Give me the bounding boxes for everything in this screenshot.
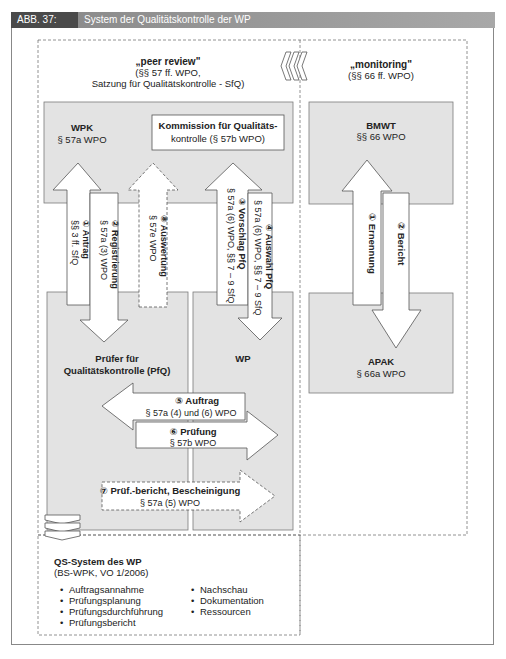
qs-item: Prüfungsbericht — [69, 617, 136, 628]
wp-label: WP — [235, 353, 251, 364]
vorschlag-ref: § 57a (6) WPO, §§ 7 – 9 SfQ — [226, 188, 236, 304]
qs-item: Dokumentation — [200, 595, 264, 606]
bullet: • — [60, 606, 63, 617]
auswahl-label: ④ Auswahl PfQ — [264, 224, 274, 289]
quality-control-diagram: „peer review" (§§ 57 ff. WPO, Satzung fü… — [0, 0, 506, 659]
qs-list-col1: • Auftragsannahme • Prüfungsplanung • Pr… — [60, 584, 163, 628]
pruefung-ref: § 57b WPO — [170, 438, 217, 448]
bmwt-ref: §§ 66 WPO — [356, 131, 405, 142]
qs-item: Prüfungsplanung — [69, 595, 141, 606]
bullet: • — [60, 617, 63, 628]
wpk-label: WPK — [71, 122, 93, 133]
qs-item: Nachschau — [200, 584, 248, 595]
auswahl-ref: § 57a (6) WPO, §§ 7 – 9 SfQ — [253, 200, 263, 316]
pruefer-line1: Prüfer für — [95, 353, 139, 364]
qs-item: Auftragsannahme — [69, 584, 144, 595]
monitoring-ref: (§§ 66 ff. WPO) — [348, 70, 414, 81]
down-chevrons-icon — [45, 515, 80, 540]
bullet: • — [60, 595, 63, 606]
qs-item: Prüfungsdurchführung — [69, 606, 163, 617]
auswertung-ref: § 57e WPO — [148, 215, 158, 262]
peer-review-title: „peer review" — [136, 56, 201, 67]
kommission-line1: Kommission für Qualitäts- — [159, 120, 278, 131]
chevrons-icon — [281, 52, 307, 80]
monitoring-title: „monitoring" — [350, 59, 412, 70]
auftrag-label: ⑤ Auftrag — [175, 395, 219, 406]
bullet: • — [191, 595, 194, 606]
qs-list-col2: • Nachschau • Dokumentation • Ressourcen — [191, 584, 264, 617]
bullet: • — [191, 606, 194, 617]
apak-ref: § 66a WPO — [356, 368, 405, 379]
bmwt-label: BMWT — [366, 120, 396, 131]
peer-review-ref: (§§ 57 ff. WPO, — [135, 67, 200, 78]
qs-title: QS-System des WP — [54, 556, 142, 567]
wpk-ref: § 57a WPO — [57, 134, 106, 145]
apak-label: APAK — [368, 356, 394, 367]
pruefung-label: ⑥ Prüfung — [169, 426, 216, 437]
vorschlag-label: ③ Vorschlag PfQ — [237, 198, 247, 269]
auftrag-ref: § 57a (4) und (6) WPO — [145, 408, 236, 418]
registrierung-label: ② Registrierung — [110, 220, 120, 289]
pruefer-line2: Qualitätskontrolle (PfQ) — [64, 365, 171, 376]
qs-item: Ressourcen — [200, 606, 251, 617]
ernennung-label: ① Ernennung — [367, 213, 378, 274]
registrierung-ref: § 57a (3) WPO — [99, 220, 109, 280]
antrag-ref: §§ 3 ff. SfQ — [70, 220, 80, 265]
kommission-line2: kontrolle (§ 57b WPO) — [171, 133, 265, 144]
bullet: • — [191, 584, 194, 595]
peer-review-sfq: Satzung für Qualitätskontrolle - SfQ) — [92, 78, 245, 89]
bullet: • — [60, 584, 63, 595]
antrag-label: ① Antrag — [81, 220, 91, 259]
pruefbericht-label: ⑦ Prüf.-bericht, Bescheinigung — [100, 485, 241, 496]
bericht-label: ② Bericht — [396, 222, 407, 266]
qs-subtitle: (BS-WPK, VO 1/2006) — [54, 567, 149, 578]
auswertung-label: ⑧ Auswertung — [159, 215, 169, 277]
pruefbericht-ref: § 57a (5) WPO — [140, 498, 200, 508]
